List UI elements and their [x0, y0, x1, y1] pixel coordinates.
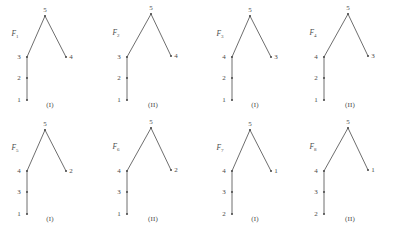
- tree-node: [231, 191, 233, 193]
- family-label: F6: [111, 142, 120, 152]
- family-label-subscript: 3: [221, 34, 224, 39]
- apex-node: [347, 13, 349, 15]
- node-label: 4: [314, 53, 318, 61]
- node-label: 3: [222, 188, 226, 196]
- panel-caption: (II): [300, 215, 400, 223]
- tree-node: [126, 77, 128, 79]
- panel-caption: (II): [103, 215, 203, 223]
- figure-sheet: 12354F1(I)12354F2(II)12453F3(I)12453F4(I…: [0, 0, 403, 230]
- apex-to-leaf-edge: [45, 130, 66, 171]
- panel-caption: (II): [103, 101, 203, 109]
- family-label-subscript: 6: [117, 147, 120, 152]
- tree-node: [126, 56, 128, 58]
- branch-to-apex-edge: [324, 14, 348, 57]
- tree-node: [26, 191, 28, 193]
- leaf-node: [367, 55, 369, 57]
- leaf-node: [270, 56, 272, 58]
- tree-node: [126, 191, 128, 193]
- node-label: 4: [117, 167, 121, 175]
- leaf-node-label: 4: [69, 53, 73, 61]
- leaf-node-label: 1: [371, 166, 375, 174]
- node-label: 3: [314, 188, 318, 196]
- leaf-node: [170, 55, 172, 57]
- node-label: 2: [17, 74, 21, 82]
- tree-node: [231, 170, 233, 172]
- apex-node-label: 5: [248, 6, 252, 14]
- leaf-node-label: 2: [174, 166, 178, 174]
- apex-node: [44, 129, 46, 131]
- node-label: 3: [117, 53, 121, 61]
- family-label-subscript: 7: [221, 148, 224, 153]
- tree-node: [126, 170, 128, 172]
- apex-node: [44, 15, 46, 17]
- apex-to-leaf-edge: [250, 130, 271, 171]
- node-label: 2: [117, 74, 121, 82]
- apex-to-leaf-edge: [348, 128, 368, 170]
- node-label: 3: [117, 188, 121, 196]
- branch-to-apex-edge: [324, 128, 348, 171]
- leaf-node: [65, 170, 67, 172]
- family-label: F2: [111, 28, 120, 38]
- family-label: F4: [308, 28, 317, 38]
- apex-to-leaf-edge: [45, 16, 66, 57]
- apex-to-leaf-edge: [250, 16, 271, 57]
- tree-node: [231, 56, 233, 58]
- tree-node: [26, 56, 28, 58]
- leaf-node: [65, 56, 67, 58]
- branch-to-apex-edge: [232, 130, 250, 171]
- family-label: F7: [215, 143, 224, 153]
- apex-to-leaf-edge: [151, 128, 171, 170]
- panel-caption: (I): [205, 215, 305, 223]
- tree-diagram-2: 12354F2(II): [103, 0, 203, 115]
- apex-node-label: 5: [346, 118, 350, 126]
- node-label: 4: [222, 167, 226, 175]
- apex-node-label: 5: [43, 6, 47, 14]
- leaf-node-label: 1: [274, 167, 278, 175]
- tree-node: [26, 170, 28, 172]
- node-label: 2: [222, 74, 226, 82]
- apex-node-label: 5: [346, 4, 350, 12]
- leaf-node: [170, 169, 172, 171]
- leaf-node: [270, 170, 272, 172]
- apex-node: [150, 127, 152, 129]
- panel-caption: (II): [300, 101, 400, 109]
- apex-node: [150, 13, 152, 15]
- apex-node: [249, 129, 251, 131]
- apex-to-leaf-edge: [151, 14, 171, 56]
- apex-node: [249, 15, 251, 17]
- apex-to-leaf-edge: [348, 14, 368, 56]
- leaf-node-label: 3: [371, 52, 375, 60]
- apex-node-label: 5: [248, 120, 252, 128]
- family-label: F1: [10, 29, 19, 39]
- apex-node-label: 5: [149, 118, 153, 126]
- tree-diagram-1: 12354F1(I): [0, 0, 100, 115]
- family-label-subscript: 2: [117, 33, 120, 38]
- branch-to-apex-edge: [127, 128, 151, 171]
- family-label: F5: [10, 143, 19, 153]
- leaf-node: [367, 169, 369, 171]
- tree-diagram-7: 23451F7(I): [205, 114, 305, 229]
- tree-node: [231, 77, 233, 79]
- apex-node-label: 5: [149, 4, 153, 12]
- tree-diagram-8: 23451F8(II): [300, 114, 400, 229]
- panel-caption: (I): [205, 101, 305, 109]
- family-label: F3: [215, 29, 224, 39]
- node-label: 3: [17, 188, 21, 196]
- node-label: 2: [314, 74, 318, 82]
- family-label-subscript: 4: [314, 33, 317, 38]
- panel-caption: (I): [0, 215, 100, 223]
- tree-diagram-4: 12453F4(II): [300, 0, 400, 115]
- tree-node: [323, 191, 325, 193]
- node-label: 3: [17, 53, 21, 61]
- family-label-subscript: 5: [16, 148, 19, 153]
- apex-node-label: 5: [43, 120, 47, 128]
- branch-to-apex-edge: [127, 14, 151, 57]
- tree-node: [323, 170, 325, 172]
- apex-node: [347, 127, 349, 129]
- leaf-node-label: 4: [174, 52, 178, 60]
- node-label: 4: [17, 167, 21, 175]
- node-label: 4: [222, 53, 226, 61]
- family-label-subscript: 1: [16, 34, 19, 39]
- family-label: F8: [308, 142, 317, 152]
- tree-diagram-3: 12453F3(I): [205, 0, 305, 115]
